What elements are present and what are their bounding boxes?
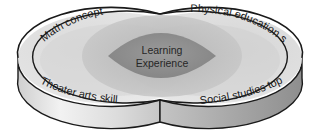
learning-experience-diagram: Math concept Physical education skill Th… — [0, 0, 319, 136]
center-label-line2: Experience — [136, 57, 189, 69]
center-label-line1: Learning — [142, 44, 183, 56]
